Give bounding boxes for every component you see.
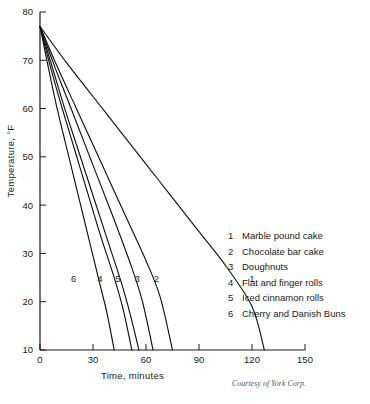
legend-item-3: 3Doughnuts: [228, 259, 368, 275]
cooling-curves-figure: 10203040506070800306090120150 123456 Tim…: [0, 0, 370, 404]
curve-4: [40, 26, 132, 350]
curve-5: [40, 26, 139, 350]
legend-key-4: 4: [228, 275, 242, 291]
curve-6: [40, 26, 114, 350]
y-tick-label-50: 50: [22, 151, 33, 162]
x-tick-label-120: 120: [244, 354, 260, 365]
x-tick-label-30: 30: [88, 354, 99, 365]
legend-label-1: Marble pound cake: [242, 228, 368, 244]
y-tick-label-60: 60: [22, 103, 33, 114]
legend-item-6: 6Cherry and Danish Buns: [228, 306, 368, 322]
curve-3: [40, 26, 153, 350]
legend-item-2: 2Chocolate bar cake: [228, 244, 368, 260]
legend-item-4: 4Flat and finger rolls: [228, 275, 368, 291]
y-tick-label-20: 20: [22, 296, 33, 307]
y-tick-label-70: 70: [22, 55, 33, 66]
x-axis-title: Time, minutes: [101, 370, 164, 381]
curve-label-5: 5: [115, 274, 120, 284]
curve-label-6: 6: [71, 274, 76, 284]
y-tick-label-80: 80: [22, 6, 33, 17]
legend-key-6: 6: [228, 306, 242, 322]
x-tick-label-150: 150: [297, 354, 313, 365]
legend-item-1: 1Marble pound cake: [228, 228, 368, 244]
curve-label-2: 2: [154, 274, 159, 284]
curve-label-4: 4: [98, 274, 103, 284]
legend-key-3: 3: [228, 259, 242, 275]
curve-label-3: 3: [135, 274, 140, 284]
legend-label-3: Doughnuts: [242, 259, 368, 275]
x-tick-label-0: 0: [37, 354, 42, 365]
y-tick-label-40: 40: [22, 200, 33, 211]
legend-label-2: Chocolate bar cake: [242, 244, 368, 260]
credit-line: Courtesy of York Corp.: [232, 379, 306, 388]
legend-key-2: 2: [228, 244, 242, 260]
y-tick-label-10: 10: [22, 344, 33, 355]
curve-number-labels: 123456: [71, 274, 254, 284]
chart-canvas: 10203040506070800306090120150 123456 Tim…: [0, 0, 370, 404]
legend-label-4: Flat and finger rolls: [242, 275, 368, 291]
legend-item-5: 5Iced cinnamon rolls: [228, 290, 368, 306]
legend-label-5: Iced cinnamon rolls: [242, 290, 368, 306]
legend-label-6: Cherry and Danish Buns: [242, 306, 368, 322]
x-tick-label-60: 60: [141, 354, 152, 365]
legend-key-1: 1: [228, 228, 242, 244]
y-tick-label-30: 30: [22, 248, 33, 259]
x-tick-label-90: 90: [194, 354, 205, 365]
chart-legend: 1Marble pound cake2Chocolate bar cake3Do…: [228, 228, 368, 322]
y-axis-title: Temperature, °F: [5, 125, 16, 198]
legend-key-5: 5: [228, 290, 242, 306]
curve-2: [40, 26, 173, 350]
